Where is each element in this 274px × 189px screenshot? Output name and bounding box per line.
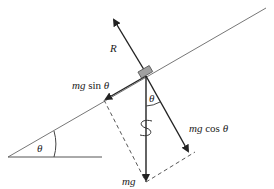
weight-label: mg — [122, 175, 136, 187]
perp-fn: cos — [205, 122, 220, 134]
perp-angle: θ — [223, 122, 229, 134]
parallel-angle: θ — [104, 79, 110, 91]
parallel-fn: sin — [88, 79, 101, 91]
parallel-component-arrow — [106, 76, 146, 99]
parallel-mg: mg — [72, 79, 86, 91]
weight-label-text: mg — [122, 175, 136, 187]
dashed-line-sin-to-mg — [104, 100, 146, 182]
perpendicular-component-label: mg cos θ — [189, 122, 229, 134]
dashed-line-mg-to-cos — [146, 152, 195, 182]
inclined-plane-diagram: θ R mg mg sin θ mg cos θ θ — [0, 0, 274, 189]
block-angle-label: θ — [149, 92, 155, 104]
parallel-component-label: mg sin θ — [72, 79, 110, 91]
perp-mg: mg — [189, 122, 203, 134]
block — [138, 66, 153, 79]
incline-surface — [8, 8, 266, 157]
normal-force-label: R — [109, 42, 117, 54]
normal-force-arrow — [114, 20, 146, 73]
perpendicular-component-arrow — [146, 76, 188, 151]
incline-angle-label: θ — [37, 142, 43, 154]
incline-angle-arc — [54, 131, 56, 157]
